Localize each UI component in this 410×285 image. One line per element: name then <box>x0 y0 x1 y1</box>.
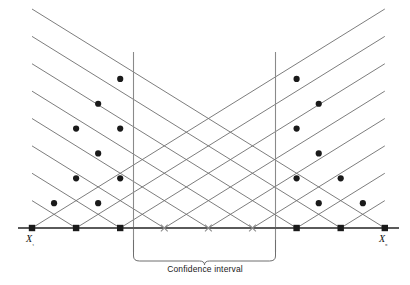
observation-square-marker <box>73 225 79 231</box>
confidence-interval-brace <box>134 240 276 265</box>
observation-square-marker <box>338 225 344 231</box>
lattice-node-dot <box>117 175 123 181</box>
lattice-node-dot <box>73 175 79 181</box>
lattice-node-dot <box>117 126 123 132</box>
lattice-node-dot <box>95 200 101 206</box>
observation-square-marker <box>29 225 35 231</box>
data-point-markers <box>29 76 388 232</box>
lattice-node-dot <box>95 150 101 156</box>
observation-square-marker <box>293 225 299 231</box>
axis-label-subscript: ₁ <box>32 239 34 247</box>
axis-label-subscript: ₉ <box>385 239 387 247</box>
lattice-diagram <box>0 0 410 285</box>
lattice-node-dot <box>360 200 366 206</box>
lattice-node-dot <box>95 101 101 107</box>
lattice-node-dot <box>73 126 79 132</box>
lattice-node-dot <box>117 76 123 82</box>
observation-square-marker <box>117 225 123 231</box>
confidence-interval-caption: Confidence interval <box>134 264 276 274</box>
axis-label-x-last: X₉ <box>379 234 388 247</box>
axis-label-x-first: X₁ <box>26 234 35 247</box>
lattice-node-dot <box>316 101 322 107</box>
lattice-line-group <box>32 9 385 228</box>
lattice-node-dot <box>338 175 344 181</box>
lattice-node-dot <box>294 126 300 132</box>
lattice-node-dot <box>294 175 300 181</box>
lattice-node-dot <box>294 76 300 82</box>
observation-square-marker <box>382 225 388 231</box>
walsh-lattice-figure: X₁ X₉ Confidence interval <box>0 0 410 285</box>
lattice-node-dot <box>316 200 322 206</box>
axis-label-x-last-text: X₉ <box>379 233 388 244</box>
axis-label-x-first-text: X₁ <box>26 233 35 244</box>
lattice-node-dot <box>316 150 322 156</box>
lattice-node-dot <box>51 200 57 206</box>
